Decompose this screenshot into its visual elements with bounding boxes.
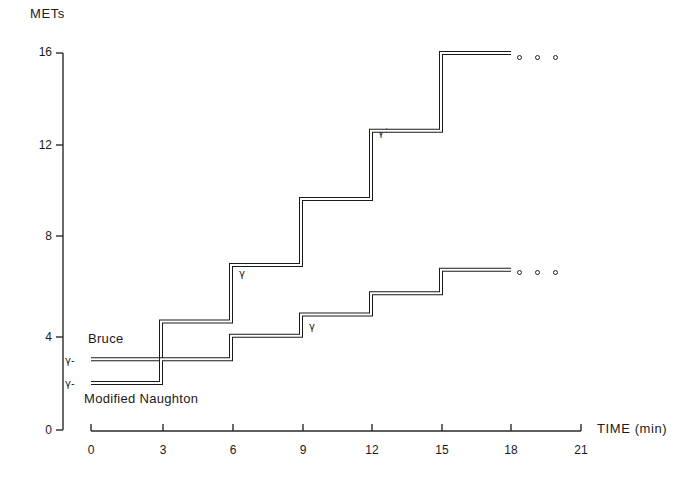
x-axis [91, 424, 581, 431]
y-axis [56, 53, 63, 430]
series-layer [91, 53, 511, 383]
plot-area [0, 0, 691, 483]
series-line-inner-1 [91, 270, 511, 383]
chart-canvas: METs TIME (min) 16 12 8 4 0 0 3 6 9 12 1… [0, 0, 691, 483]
